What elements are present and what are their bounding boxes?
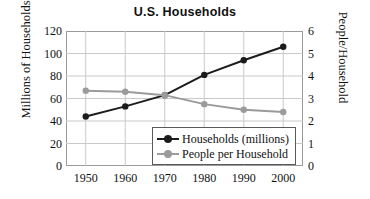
y-tick-label-left: 100: [44, 48, 62, 60]
y-tick-label-left: 80: [50, 70, 62, 82]
legend-item-people-per-household[interactable]: People per Household: [157, 146, 289, 161]
data-point: [241, 57, 247, 63]
chart-legend: Households (millions) People per Househo…: [152, 127, 296, 165]
y-tick-label-left: 120: [44, 25, 62, 37]
y-tick-label-right: 1: [308, 138, 314, 150]
data-point: [280, 44, 286, 50]
x-tick-label: 1990: [232, 172, 256, 184]
legend-marker-people-per-household-icon: [157, 148, 179, 160]
x-tick-label: 1980: [192, 172, 216, 184]
data-point: [122, 103, 128, 109]
x-tick-label: 1950: [74, 172, 98, 184]
y-tick-label-left: 0: [56, 160, 62, 172]
chart-title: U.S. Households: [0, 5, 370, 19]
legend-marker-households-icon: [157, 133, 179, 145]
series-line-0: [86, 47, 284, 117]
y-tick-label-right: 4: [308, 70, 314, 82]
y-tick-label-left: 20: [50, 138, 62, 150]
data-point: [201, 101, 207, 107]
x-tick-label: 1960: [113, 172, 137, 184]
y-tick-label-right: 2: [308, 115, 314, 127]
data-series-layer: [83, 44, 287, 120]
x-tick-label: 2000: [271, 172, 295, 184]
y-tick-label-right: 5: [308, 48, 314, 60]
y-tick-label-right: 0: [308, 160, 314, 172]
y-axis-label-right: People/Household: [335, 0, 350, 128]
data-point: [122, 89, 128, 95]
data-point: [241, 107, 247, 113]
data-point: [162, 92, 168, 98]
data-point: [201, 72, 207, 78]
y-tick-label-right: 3: [308, 93, 314, 105]
y-axis-label-left: Millions of Households: [19, 0, 34, 140]
legend-item-households[interactable]: Households (millions): [157, 131, 289, 146]
y-tick-label-right: 6: [308, 25, 314, 37]
data-point: [83, 113, 89, 119]
x-tick-label: 1970: [153, 172, 177, 184]
data-point: [83, 87, 89, 93]
y-tick-label-left: 40: [50, 115, 62, 127]
data-point: [280, 109, 286, 115]
legend-label-households: Households (millions): [182, 133, 289, 145]
legend-label-people-per-household: People per Household: [182, 148, 288, 160]
y-tick-label-left: 60: [50, 93, 62, 105]
chart-figure: U.S. Households Millions of Households P…: [0, 0, 370, 199]
